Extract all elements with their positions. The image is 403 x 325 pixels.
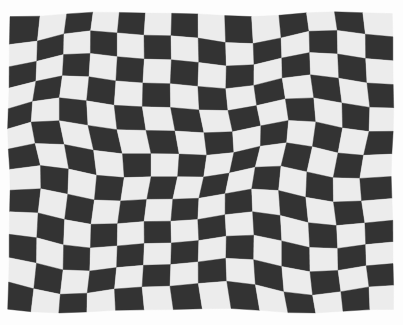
light-square [337, 30, 365, 58]
light-square [143, 59, 172, 84]
dark-square [204, 132, 234, 155]
light-square [171, 220, 199, 243]
dark-square [198, 38, 226, 66]
dark-square [171, 198, 199, 221]
light-square [115, 265, 144, 289]
light-square [117, 222, 144, 246]
light-square [117, 130, 151, 154]
dark-square [334, 201, 365, 226]
light-square [287, 120, 316, 146]
dark-square [171, 108, 204, 133]
light-square [90, 246, 118, 271]
dark-square [118, 199, 147, 223]
dark-square [142, 265, 171, 287]
dark-square [252, 166, 281, 190]
light-square [64, 31, 91, 55]
light-square [142, 286, 173, 310]
light-square [363, 13, 393, 37]
dark-square [365, 34, 393, 61]
light-square [171, 36, 199, 63]
dark-square [225, 16, 254, 44]
light-square [144, 199, 173, 221]
light-square [360, 154, 392, 178]
light-square [87, 289, 116, 312]
light-square [362, 199, 393, 224]
dark-square [144, 35, 171, 60]
dark-square [147, 177, 178, 200]
dark-square [170, 60, 199, 87]
dark-square [367, 83, 394, 108]
light-square [175, 131, 207, 155]
dark-square [285, 98, 316, 122]
light-square [170, 262, 198, 286]
dark-square [31, 121, 64, 145]
dark-square [117, 12, 145, 35]
light-square [198, 14, 226, 43]
light-square [121, 177, 151, 201]
dark-square [63, 245, 90, 271]
dark-square [342, 103, 370, 132]
light-square [144, 13, 172, 36]
light-square [225, 212, 254, 237]
light-square [94, 150, 125, 177]
light-square [339, 78, 370, 107]
light-square [307, 12, 338, 32]
light-square [333, 178, 361, 202]
light-square [64, 220, 92, 248]
light-square [144, 243, 172, 265]
light-square [310, 53, 339, 79]
light-square [173, 177, 204, 199]
light-square [306, 197, 337, 225]
light-square [198, 236, 226, 262]
light-square [142, 107, 175, 131]
dark-square [62, 53, 90, 76]
light-square [199, 110, 232, 133]
dark-square [90, 31, 117, 57]
dark-square [365, 220, 393, 244]
light-square [369, 107, 394, 131]
dark-square [9, 16, 40, 44]
dark-square [94, 175, 124, 201]
dark-square [123, 154, 152, 178]
light-square [151, 154, 179, 177]
dark-square [144, 221, 171, 243]
dark-square [10, 189, 41, 213]
light-square [9, 212, 38, 238]
dark-square [114, 105, 146, 130]
dark-square [171, 13, 198, 38]
dark-square [198, 258, 227, 283]
dark-square [87, 77, 116, 106]
dark-square [178, 154, 207, 177]
dark-square [115, 287, 145, 310]
light-square [337, 223, 366, 248]
dark-square [142, 83, 170, 108]
dark-square [171, 241, 199, 265]
light-square [35, 143, 69, 169]
light-square [226, 258, 256, 284]
light-square [170, 84, 199, 110]
light-square [87, 101, 117, 130]
dark-square [284, 292, 316, 313]
dark-square [90, 224, 117, 248]
dark-square [310, 270, 341, 295]
dark-square [366, 264, 393, 287]
light-square [282, 75, 314, 99]
light-square [198, 63, 226, 89]
light-square [366, 59, 394, 85]
light-square [59, 76, 89, 101]
light-square [366, 242, 393, 266]
dark-square [116, 57, 144, 83]
distorted-checkerboard [0, 0, 403, 325]
dark-square [308, 223, 337, 249]
light-square [89, 53, 117, 81]
light-square [114, 81, 143, 107]
light-square [10, 166, 41, 191]
light-square [226, 43, 254, 66]
light-square [91, 12, 120, 33]
dark-square [146, 130, 179, 154]
light-square [60, 270, 90, 294]
light-square [369, 285, 394, 309]
light-square [310, 248, 338, 272]
dark-square [309, 30, 338, 54]
dark-square [226, 235, 254, 260]
